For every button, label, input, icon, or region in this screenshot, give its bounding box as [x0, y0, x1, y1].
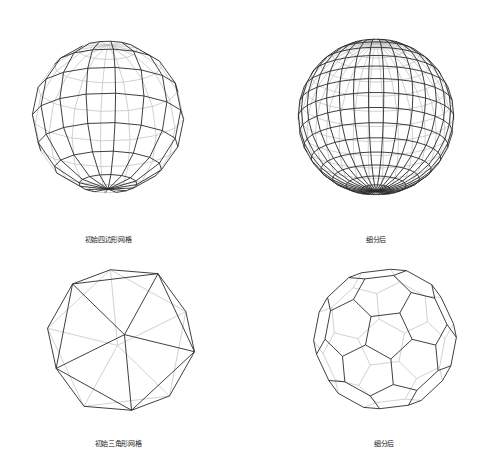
- sphere-front-edge: [60, 98, 64, 127]
- sphere-front-edge: [397, 67, 410, 69]
- sphere-back-edge: [126, 57, 142, 79]
- polyhedron-back-edge: [364, 403, 377, 408]
- sphere-back-edge: [422, 103, 432, 106]
- sphere-front-edge: [410, 69, 422, 71]
- sphere-front-edge: [372, 165, 373, 176]
- sphere-front-edge: [360, 152, 371, 153]
- sphere-back-edge: [85, 56, 94, 58]
- sphere-front-edge: [410, 69, 412, 82]
- sphere-front-edge: [339, 81, 340, 95]
- sphere-back-edge: [435, 118, 436, 133]
- sphere-front-edge: [320, 131, 326, 145]
- sphere-front-edge: [335, 142, 341, 156]
- sphere-front-edge: [402, 154, 411, 156]
- sphere-back-edge: [377, 49, 378, 58]
- sphere-front-edge: [133, 153, 149, 157]
- sphere-front-edge: [373, 176, 374, 185]
- sphere-back-edge: [142, 74, 155, 79]
- sphere-front-edge: [382, 138, 394, 139]
- sphere-back-edge: [411, 76, 419, 78]
- sphere-back-edge: [100, 141, 101, 167]
- sphere-front-edge: [86, 94, 88, 123]
- sphere-back-edge: [370, 69, 371, 82]
- sphere-back-edge: [417, 57, 419, 60]
- sphere-back-edge: [402, 78, 411, 80]
- sphere-front-edge: [161, 147, 177, 170]
- sphere-back-edge: [152, 136, 156, 162]
- sphere-back-edge: [356, 67, 364, 68]
- sphere-back-edge: [381, 82, 382, 96]
- sphere-front-edge: [389, 166, 397, 167]
- sphere-front-edge: [426, 131, 432, 145]
- sphere-back-edge: [435, 114, 443, 118]
- sphere-front-edge: [304, 139, 307, 143]
- sphere-front-edge: [327, 98, 328, 113]
- sphere-front-edge: [64, 68, 88, 72]
- sphere-front-edge: [115, 67, 141, 70]
- polyhedron-front-edge: [338, 393, 363, 407]
- polyhedron-front-edge: [441, 298, 453, 324]
- sphere-front-edge: [385, 176, 390, 177]
- sphere-front-edge: [364, 42, 372, 43]
- sphere-back-edge: [341, 78, 350, 80]
- sphere-front-edge: [378, 176, 379, 185]
- sphere-front-edge: [355, 66, 369, 67]
- sphere-front-edge: [370, 138, 371, 152]
- sphere-front-edge: [141, 125, 162, 130]
- sphere-back-edge: [101, 166, 128, 167]
- sphere-front-edge: [317, 113, 328, 116]
- sphere-front-edge: [384, 79, 399, 80]
- polyhedron-front-edge: [362, 269, 391, 272]
- sphere-back-edge: [72, 138, 100, 141]
- sphere-front-edge: [330, 125, 342, 127]
- polyhedron-front-edge: [56, 284, 72, 368]
- sphere-back-edge: [342, 94, 345, 109]
- sphere-front-edge: [316, 87, 317, 101]
- polyhedron-front-edge: [124, 274, 158, 335]
- sphere-front-edge: [382, 56, 383, 67]
- polyhedron-front-edge: [400, 292, 411, 313]
- sphere-front-edge: [355, 123, 369, 124]
- sphere-back-edge: [382, 168, 383, 179]
- sphere-back-edge: [83, 81, 103, 83]
- sphere-front-edge: [167, 102, 181, 110]
- sphere-front-edge: [328, 113, 331, 128]
- sphere-back-edge: [399, 53, 402, 55]
- sphere-front-edge: [113, 151, 133, 153]
- sphere-front-edge: [122, 153, 134, 175]
- sphere-front-edge: [379, 165, 380, 176]
- sphere-back-edge: [395, 55, 399, 56]
- sphere-back-edge: [126, 55, 133, 58]
- caption-subdivided-triangle: 细分后: [344, 438, 424, 448]
- sphere-front-edge: [175, 83, 181, 110]
- polyhedron-back-edge: [169, 312, 185, 396]
- polyhedron-front-edge: [124, 335, 194, 352]
- sphere-front-edge: [326, 145, 333, 158]
- sphere-front-edge: [32, 87, 38, 114]
- sphere-back-edge: [75, 109, 101, 112]
- polyhedron-back-edge: [399, 362, 417, 379]
- sphere-front-edge: [131, 157, 150, 178]
- sphere-front-edge: [141, 96, 144, 125]
- sphere-back-edge: [320, 103, 330, 106]
- sphere-back-edge: [384, 140, 399, 141]
- sphere-front-edge: [74, 152, 93, 155]
- sphere-back-edge: [355, 167, 369, 168]
- sphere-front-edge: [175, 110, 181, 138]
- sphere-front-edge: [159, 138, 175, 163]
- sphere-front-edge: [327, 84, 328, 98]
- polyhedron-back-edge: [48, 328, 84, 406]
- sphere-back-edge: [389, 67, 397, 68]
- sphere-front-edge: [159, 61, 175, 83]
- sphere-front-edge: [55, 166, 80, 182]
- sphere-back-edge: [103, 82, 124, 83]
- sphere-back-edge: [49, 132, 53, 158]
- sphere-back-edge: [103, 59, 105, 82]
- sphere-front-edge: [350, 154, 356, 166]
- polyhedron-front-edge: [84, 406, 132, 410]
- sphere-back-edge: [38, 64, 54, 87]
- sphere-back-edge: [116, 57, 126, 59]
- polyhedron-front-edge: [406, 271, 431, 285]
- sphere-front-edge: [74, 155, 90, 177]
- sphere-front-edge: [402, 185, 414, 190]
